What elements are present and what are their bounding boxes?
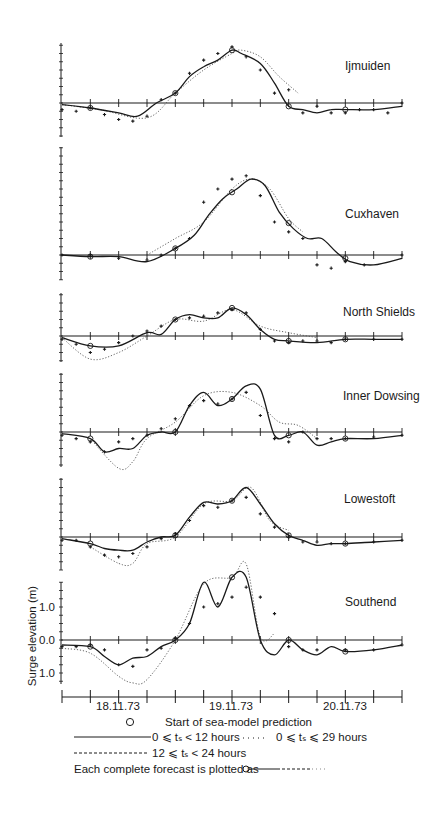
observed-point — [131, 552, 134, 555]
observed-point — [103, 554, 106, 557]
observed-point — [273, 612, 276, 615]
observed-point — [400, 253, 403, 256]
observed-point — [117, 440, 120, 443]
observed-point — [344, 542, 347, 545]
observed-point — [89, 351, 92, 354]
panel-inner-dowsing — [59, 373, 404, 470]
observed-point — [259, 194, 262, 197]
observed-point — [188, 316, 191, 319]
panel-north-shields — [59, 293, 404, 362]
dotted-forecast-line — [62, 561, 275, 684]
station-label-ijmuiden: Ijmuiden — [345, 59, 390, 73]
observed-point — [400, 101, 403, 104]
station-label-southend: Southend — [345, 595, 396, 609]
observed-point — [287, 440, 290, 443]
observed-point — [400, 434, 403, 437]
y-tick-0: 0.0 — [39, 634, 55, 646]
legend-dotted-text: 0 ⩽ tₛ ⩽ 29 hours — [276, 731, 367, 743]
observed-point — [358, 108, 361, 111]
observed-point — [315, 540, 318, 543]
legend: Start of sea-model prediction 0 ⩽ tₛ < 1… — [74, 716, 367, 775]
observed-point — [230, 178, 233, 181]
observed-point — [117, 555, 120, 558]
observed-point — [259, 414, 262, 417]
observed-point — [372, 338, 375, 341]
observed-point — [259, 596, 262, 599]
observed-point — [117, 118, 120, 121]
observed-point — [131, 334, 134, 337]
y-tick-minus-1: − 1.0 — [29, 667, 55, 679]
observed-point — [202, 59, 205, 62]
observed-point — [330, 111, 333, 114]
observed-point — [330, 437, 333, 440]
observed-point — [245, 174, 248, 177]
observed-point — [245, 391, 248, 394]
observed-point — [287, 645, 290, 648]
observed-point — [160, 325, 163, 328]
legend-circle-text: Start of sea-model prediction — [165, 716, 312, 728]
observed-point — [216, 602, 219, 605]
observed-point — [75, 437, 78, 440]
observed-point — [188, 72, 191, 75]
observed-point — [344, 338, 347, 341]
observed-point — [75, 110, 78, 113]
observed-point — [400, 338, 403, 341]
observed-point — [103, 113, 106, 116]
observed-point — [400, 539, 403, 542]
station-label-north-shields: North Shields — [343, 305, 415, 319]
observed-point — [315, 105, 318, 108]
observed-point — [386, 111, 389, 114]
observed-point — [400, 643, 403, 646]
observed-point — [216, 311, 219, 314]
station-label-inner-dowsing: Inner Dowsing — [343, 389, 420, 403]
observed-point — [131, 120, 134, 123]
observed-point — [245, 586, 248, 589]
observed-point — [131, 665, 134, 668]
observed-point — [372, 108, 375, 111]
observed-point — [273, 526, 276, 529]
observed-point — [315, 648, 318, 651]
observed-point — [273, 220, 276, 223]
solid-forecast-line — [62, 571, 402, 664]
station-label-lowestoft: Lowestoft — [344, 492, 396, 506]
observed-point — [245, 496, 248, 499]
observed-point — [344, 437, 347, 440]
observed-point — [230, 596, 233, 599]
observed-point — [259, 68, 262, 71]
observed-point — [103, 648, 106, 651]
observed-point — [301, 111, 304, 114]
observed-point — [216, 506, 219, 509]
station-label-cuxhaven: Cuxhaven — [345, 207, 399, 221]
panel-southend — [59, 561, 404, 684]
observed-point — [315, 437, 318, 440]
panel-ijmuiden — [59, 43, 404, 137]
observed-point — [174, 417, 177, 420]
observed-point — [287, 230, 290, 233]
legend-dashed-text: 12 ⩽ tₛ < 24 hours — [152, 747, 246, 759]
observed-point — [315, 263, 318, 266]
observed-point — [216, 187, 219, 190]
observed-point — [202, 605, 205, 608]
dotted-forecast-line — [62, 50, 298, 118]
observed-point — [372, 540, 375, 543]
observed-point — [372, 648, 375, 651]
observed-point — [145, 648, 148, 651]
legend-solid-text: 0 ⩽ tₛ < 12 hours — [152, 731, 240, 743]
observed-point — [259, 512, 262, 515]
observed-point — [117, 341, 120, 344]
y-tick-1: 1.0 — [39, 601, 55, 613]
x-label-18-11-73: 18.11.73 — [96, 700, 140, 712]
observed-point — [202, 399, 205, 402]
observed-point — [330, 542, 333, 545]
panels-group — [59, 43, 404, 684]
observed-point — [131, 437, 134, 440]
observed-point — [117, 663, 120, 666]
observed-point — [330, 267, 333, 270]
observed-point — [103, 348, 106, 351]
dotted-forecast-line — [147, 179, 303, 255]
observed-point — [202, 201, 205, 204]
circle-marker-icon — [126, 718, 133, 725]
observed-point — [145, 545, 148, 548]
legend-each-text: Each complete forecast is plotted as — [74, 763, 259, 775]
dotted-forecast-line — [90, 487, 288, 566]
